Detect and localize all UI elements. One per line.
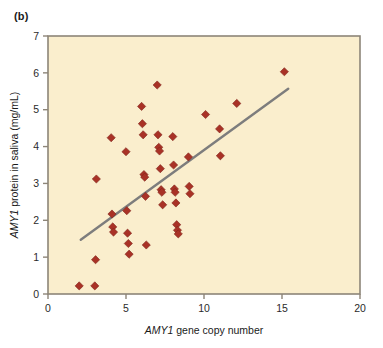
scatter-plot: 01234567 05101520 AMY1 gene copy number …	[0, 0, 383, 348]
x-axis-title: AMY1 gene copy number	[144, 324, 264, 336]
plot-background	[48, 36, 360, 294]
x-tick-label: 15	[276, 302, 288, 314]
y-tick-label: 5	[33, 103, 39, 115]
x-axis-tick-labels: 05101520	[45, 302, 366, 314]
figure-panel-b: (b) 01234567 05101520 AMY1 gene copy num…	[0, 0, 383, 348]
x-tick-label: 0	[45, 302, 51, 314]
y-tick-label: 4	[33, 140, 39, 152]
y-axis-title: AMY1 protein in saliva (mg/mL)	[8, 92, 20, 239]
y-tick-label: 2	[33, 214, 39, 226]
y-axis-tick-labels: 01234567	[33, 30, 39, 300]
x-tick-label: 10	[198, 302, 210, 314]
y-tick-label: 6	[33, 67, 39, 79]
x-tick-label: 20	[354, 302, 366, 314]
y-tick-label: 3	[33, 177, 39, 189]
y-tick-label: 0	[33, 288, 39, 300]
x-tick-label: 5	[123, 302, 129, 314]
y-tick-label: 1	[33, 251, 39, 263]
y-tick-label: 7	[33, 30, 39, 42]
